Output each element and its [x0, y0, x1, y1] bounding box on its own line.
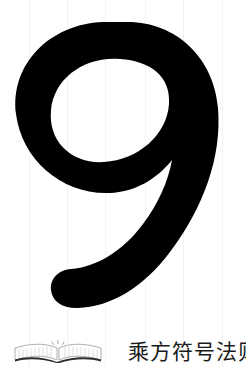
chapter-opener-page: 乘方符号法则: [0, 0, 246, 366]
chapter-number-graphic: [0, 0, 246, 330]
chapter-footer: 乘方符号法则: [0, 326, 246, 366]
open-book-icon: [12, 335, 104, 363]
chapter-title: 乘方符号法则: [128, 340, 246, 364]
chapter-number-9-icon: [0, 0, 246, 330]
